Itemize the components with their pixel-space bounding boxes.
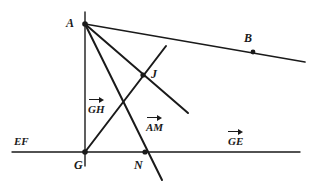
point-dot-g [82,149,88,155]
vector-label-gh: GH [88,96,105,115]
point-label-j: J [151,68,157,80]
vector-label-ge-text: GE [228,136,243,147]
point-label-n: N [134,159,143,171]
right-arrow-icon [147,114,162,121]
line-a-to-b [85,24,305,62]
right-arrow-icon [228,128,243,135]
point-label-b: B [244,32,252,44]
label-ef: EF [14,136,29,147]
right-arrow-icon [89,96,104,103]
vector-label-gh-text: GH [88,104,105,115]
point-dot-a [82,21,88,27]
point-dot-j [140,72,145,77]
geometry-figure [0,0,318,183]
vector-label-ge: GE [228,128,243,147]
point-dot-n [142,149,147,154]
point-label-a: A [66,17,74,29]
vector-label-am-text: AM [146,122,163,133]
vector-label-am: AM [146,114,163,133]
diagram-canvas: A B J G N EF GH AM GE [0,0,318,183]
point-label-g: G [74,159,83,171]
point-dot-b [251,50,256,55]
